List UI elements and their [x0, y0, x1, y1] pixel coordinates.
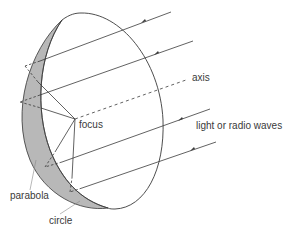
axis-line — [75, 80, 186, 119]
parabola-label: parabola — [10, 191, 49, 201]
circle-leader — [60, 201, 80, 214]
arrow-icon — [178, 117, 183, 121]
ray-3 — [62, 109, 210, 162]
reflect-3 — [55, 119, 75, 152]
ray-1 — [40, 12, 171, 61]
dish-band — [22, 20, 108, 209]
ray-2 — [40, 41, 193, 95]
circle-label: circle — [49, 216, 72, 226]
waves-label: light or radio waves — [196, 121, 282, 131]
ray-4 — [82, 142, 216, 188]
axis-label: axis — [192, 73, 210, 83]
reflect-4 — [72, 119, 75, 178]
rim-ellipse — [62, 13, 163, 209]
focus-label: focus — [79, 120, 103, 130]
arrow-icon — [154, 51, 159, 55]
reflect-1 — [38, 82, 75, 119]
